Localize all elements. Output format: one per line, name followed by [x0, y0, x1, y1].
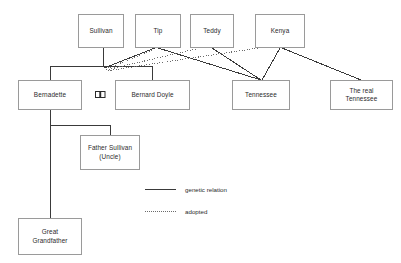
- marriage-link-icon: [95, 91, 106, 98]
- edge-tip-to-junction: [104, 48, 155, 68]
- legend: genetic relation adopted: [145, 184, 227, 216]
- edge-tip-adopted-to-junction: [106, 50, 152, 69]
- edge-kenya-to-real-tennessee: [282, 48, 361, 80]
- node-tip[interactable]: Tip: [135, 14, 181, 48]
- node-bernard-doyle[interactable]: Bernard Doyle: [115, 80, 190, 110]
- legend-solid-line-icon: [145, 186, 176, 192]
- legend-label-adopted: adopted: [185, 208, 207, 215]
- node-sullivan[interactable]: Sullivan: [78, 14, 124, 48]
- edge-teddy-adopted-to-junction: [106, 49, 196, 70]
- edge-kenya-to-tennessee: [262, 48, 280, 80]
- node-tennessee[interactable]: Tennessee: [232, 80, 290, 110]
- node-label-the-real-tennessee: The real Tennessee: [344, 87, 380, 104]
- node-father-sullivan[interactable]: Father Sullivan (Uncle): [80, 135, 140, 170]
- legend-row-adopted: adopted: [145, 206, 227, 216]
- node-label-tip: Tip: [152, 27, 165, 35]
- node-label-kenya: Kenya: [269, 27, 292, 35]
- legend-label-genetic: genetic relation: [185, 186, 227, 193]
- edge-teddy-to-tennessee: [212, 48, 261, 80]
- node-label-great-grandfather: Great Grandfather: [30, 228, 69, 245]
- node-label-teddy: Teddy: [201, 27, 223, 35]
- node-label-bernard-doyle: Bernard Doyle: [129, 91, 175, 99]
- node-label-tennessee: Tennessee: [243, 91, 279, 99]
- node-kenya[interactable]: Kenya: [255, 14, 305, 48]
- node-the-real-tennessee[interactable]: The real Tennessee: [330, 80, 393, 110]
- family-tree-diagram: Sullivan Tip Teddy Kenya Bernadette Bern…: [0, 0, 401, 263]
- edge-tip-to-tennessee: [158, 48, 261, 80]
- node-label-father-sullivan: Father Sullivan (Uncle): [86, 144, 134, 161]
- legend-dotted-line-icon: [145, 208, 176, 214]
- legend-row-genetic: genetic relation: [145, 184, 227, 194]
- node-label-bernadette: Bernadette: [32, 91, 68, 99]
- node-great-grandfather[interactable]: Great Grandfather: [18, 218, 82, 255]
- edge-kenya-adopted-to-junction: [106, 48, 258, 71]
- node-bernadette[interactable]: Bernadette: [18, 80, 82, 110]
- node-label-sullivan: Sullivan: [87, 27, 114, 35]
- node-teddy[interactable]: Teddy: [190, 14, 234, 48]
